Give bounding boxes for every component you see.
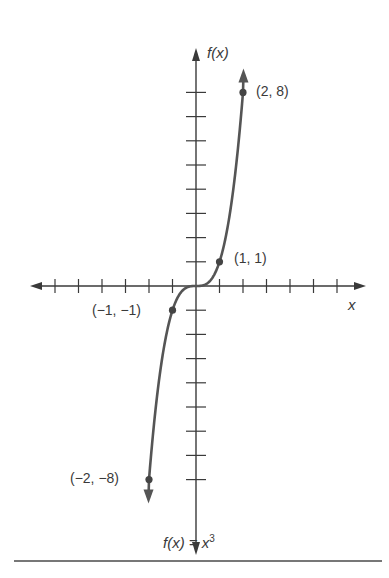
data-point — [239, 89, 246, 96]
data-point — [216, 258, 223, 265]
data-point — [169, 307, 176, 314]
x-axis-right-arrow-icon — [354, 282, 366, 290]
curve-down-arrow-icon — [144, 490, 154, 504]
bottom-rule — [14, 560, 382, 562]
x-axis-label: x — [348, 296, 356, 313]
caption-base: f(x) = x — [163, 534, 209, 551]
y-axis-label: f(x) — [207, 44, 229, 61]
point-label-1-1: (1, 1) — [234, 250, 267, 266]
point-label-neg1-neg1: (−1, −1) — [92, 302, 141, 318]
curve-up-arrow-icon — [238, 68, 248, 82]
point-label-2-8: (2, 8) — [256, 83, 289, 99]
cubic-function-graph — [0, 0, 389, 578]
point-label-neg2-neg8: (−2, −8) — [70, 470, 119, 486]
caption-exponent: 3 — [209, 533, 215, 544]
data-point — [145, 476, 152, 483]
x-axis-left-arrow-icon — [30, 282, 42, 290]
y-axis-up-arrow-icon — [192, 48, 200, 61]
function-caption: f(x) = x3 — [163, 533, 215, 551]
